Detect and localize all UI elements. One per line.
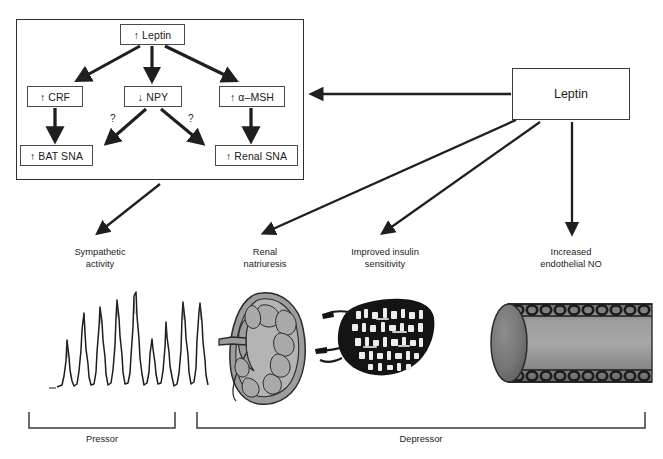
- outcome-sympathetic-line1: Sympathetic: [50, 247, 150, 259]
- sympathetic-nerve-activity-trace: [49, 292, 208, 388]
- panel-to-sympathetic-arrow: [98, 184, 160, 233]
- node-decreased-npy[interactable]: ↓ NPY: [124, 86, 182, 107]
- blood-vessel-illustration: [491, 304, 652, 382]
- node-increased-crf[interactable]: ↑ CRF: [27, 86, 83, 107]
- node-increased-bat-sna[interactable]: ↑ BAT SNA: [20, 145, 93, 166]
- leptin-to-outcomes-arrows: [264, 120, 572, 233]
- node-increased-leptin-label: ↑ Leptin: [134, 29, 172, 41]
- pressor-bracket: [29, 412, 175, 428]
- outcome-insulin-line1: Improved insulin: [329, 247, 441, 259]
- outcome-label-endothelial-no: Increased endothelial NO: [515, 247, 627, 270]
- bracket-label-pressor: Pressor: [52, 434, 152, 444]
- outcome-renal-line2: natriuresis: [219, 259, 311, 271]
- outcome-endothelial-line2: endothelial NO: [515, 259, 627, 271]
- node-increased-crf-label: ↑ CRF: [40, 91, 70, 103]
- node-circulating-leptin-label: Leptin: [554, 87, 588, 101]
- outcome-label-renal-natriuresis: Renal natriuresis: [219, 247, 311, 270]
- diagram-canvas: ↑ Leptin ↑ CRF ↓ NPY ↑ α–MSH ↑ BAT SNA ↑…: [0, 0, 663, 459]
- outcome-label-insulin-sensitivity: Improved insulin sensitivity: [329, 247, 441, 270]
- kidney-illustration: [219, 293, 305, 405]
- bracket-label-depressor: Depressor: [371, 434, 471, 444]
- outcome-label-sympathetic-activity: Sympathetic activity: [50, 247, 150, 270]
- question-mark-npy-bat: ?: [110, 113, 116, 124]
- node-circulating-leptin[interactable]: Leptin: [512, 68, 630, 120]
- node-increased-leptin[interactable]: ↑ Leptin: [120, 24, 185, 45]
- question-mark-npy-renal: ?: [188, 113, 194, 124]
- node-increased-alpha-msh[interactable]: ↑ α–MSH: [219, 86, 285, 107]
- pancreatic-islet-micrograph: [315, 299, 434, 376]
- node-increased-renal-sna[interactable]: ↑ Renal SNA: [215, 145, 298, 166]
- outcome-insulin-line2: sensitivity: [329, 259, 441, 271]
- node-decreased-npy-label: ↓ NPY: [138, 91, 168, 103]
- node-increased-bat-sna-label: ↑ BAT SNA: [30, 150, 83, 162]
- node-increased-alpha-msh-label: ↑ α–MSH: [230, 91, 274, 103]
- outcome-renal-line1: Renal: [219, 247, 311, 259]
- outcome-sympathetic-line2: activity: [50, 259, 150, 271]
- node-increased-renal-sna-label: ↑ Renal SNA: [226, 150, 287, 162]
- outcome-endothelial-line1: Increased: [515, 247, 627, 259]
- depressor-bracket: [197, 412, 645, 428]
